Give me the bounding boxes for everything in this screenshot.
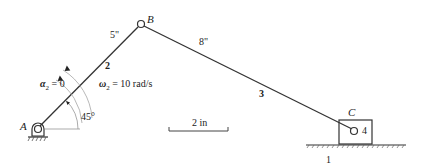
label-scale-bar: 2 in xyxy=(192,118,207,128)
label-point-a: A xyxy=(20,121,27,132)
slider-crank-diagram: A B C 5" 8" 2 3 4 1 45° α2 = 0 ω2 = 10 r… xyxy=(0,0,435,167)
label-alpha: α2 = 0 xyxy=(40,79,65,92)
label-link-4: 4 xyxy=(362,126,367,136)
mechanism-drawing xyxy=(0,0,435,167)
label-crank-length: 5" xyxy=(110,30,119,40)
pin-c xyxy=(351,128,358,135)
label-angle: 45° xyxy=(81,112,95,122)
pin-b xyxy=(138,21,145,28)
coupler-link-3 xyxy=(144,26,352,129)
angle-arc xyxy=(66,101,78,129)
ground-track xyxy=(306,145,406,148)
label-link-3: 3 xyxy=(259,89,264,99)
label-point-c: C xyxy=(348,107,355,118)
label-link-1: 1 xyxy=(326,155,331,165)
ground-pivot-a xyxy=(28,123,48,141)
label-link-2: 2 xyxy=(105,61,110,71)
label-point-b: B xyxy=(147,14,154,25)
label-omega: ω2 = 10 rad/s xyxy=(99,79,152,92)
label-coupler-length: 8" xyxy=(199,37,208,47)
